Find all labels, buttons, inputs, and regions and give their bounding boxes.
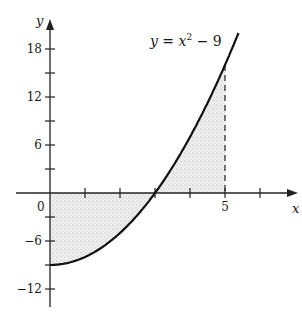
y-axis-arrow-icon [46, 19, 54, 30]
x-tick-label: 5 [221, 200, 229, 214]
shaded-area [50, 65, 225, 265]
y-tick-label: 6 [34, 138, 42, 152]
function-label: y = x2 − 9 [149, 32, 222, 49]
y-tick-label: −12 [17, 282, 42, 296]
y-axis-label: y [35, 13, 44, 28]
x-axis-arrow-icon [287, 189, 298, 197]
y-tick-labels: 18126−6−12 [17, 42, 42, 296]
origin-label: 0 [37, 200, 45, 214]
x-axis-label: x [292, 201, 300, 216]
y-tick-label: −6 [24, 234, 42, 248]
y-tick-label: 12 [27, 90, 42, 104]
function-graph: y x 0 18126−6−12 5 y = x2 − 9 [0, 0, 302, 317]
x-tick-labels: 5 [221, 200, 229, 214]
y-tick-label: 18 [27, 42, 42, 56]
